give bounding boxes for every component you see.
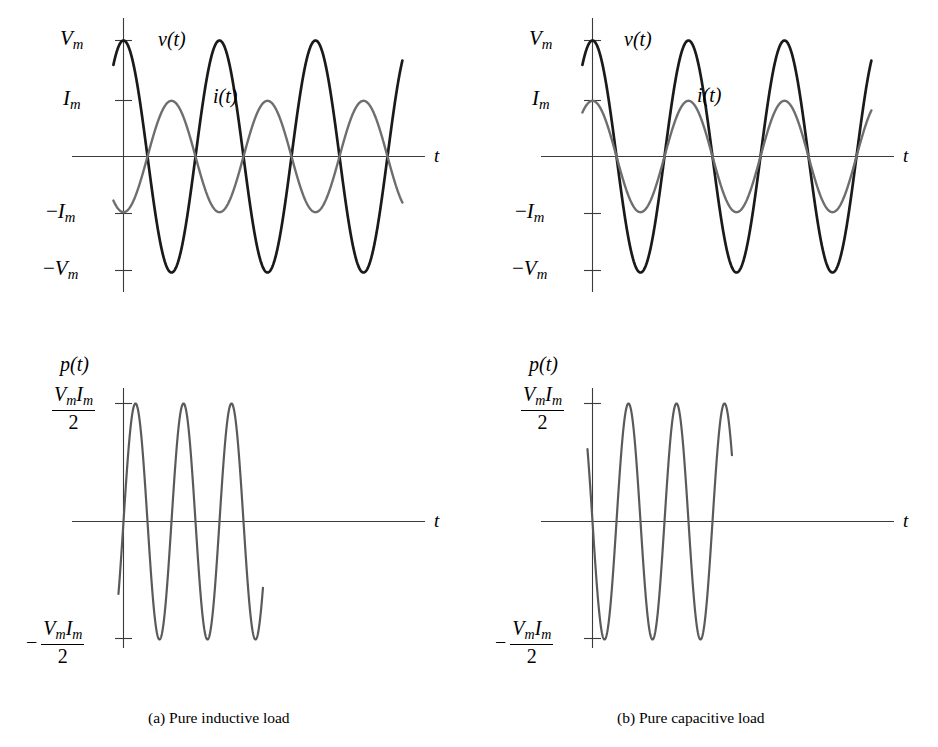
- ytick-label-pos-peak: VmIm 2: [52, 384, 95, 433]
- ytick-label-neg-Im: −Im: [46, 201, 75, 225]
- voltage-curve-label: v(t): [624, 29, 652, 49]
- axes: [541, 388, 894, 648]
- ytick-label-Im: Im: [532, 88, 550, 112]
- current-curve-label: i(t): [213, 86, 237, 106]
- voltage-curve-label: v(t): [158, 29, 186, 49]
- ytick-label-neg-Vm: −Vm: [512, 258, 547, 282]
- power-axis-label: p(t): [60, 354, 89, 374]
- caption-a: (a) Pure inductive load: [148, 709, 290, 727]
- chart-capacitive-voltage-current: Vm Im −Im −Vm v(t) i(t) t: [469, 0, 938, 330]
- ytick-label-neg-Vm: −Vm: [43, 258, 78, 282]
- caption-b: (b) Pure capacitive load: [617, 709, 765, 727]
- chart-inductive-power: p(t) VmIm 2 − VmIm 2 t: [0, 340, 469, 700]
- ytick-label-pos-peak: VmIm 2: [521, 384, 564, 433]
- ytick-label-neg-peak: − VmIm 2: [495, 618, 553, 667]
- t-axis-label: t: [903, 146, 908, 165]
- axes: [72, 388, 425, 648]
- current-curve-label: i(t): [697, 85, 721, 105]
- ytick-label-Vm: Vm: [60, 28, 83, 52]
- ytick-label-Vm: Vm: [529, 28, 552, 52]
- ytick-label-neg-peak: − VmIm 2: [26, 618, 84, 667]
- t-axis-label: t: [434, 511, 439, 530]
- chart-inductive-voltage-current: Vm Im −Im −Vm v(t) i(t) t: [0, 0, 469, 330]
- chart-capacitive-power: p(t) VmIm 2 − VmIm 2 t: [469, 340, 938, 700]
- t-axis-label: t: [903, 511, 908, 530]
- power-axis-label: p(t): [529, 354, 558, 374]
- t-axis-label: t: [434, 146, 439, 165]
- ytick-label-Im: Im: [63, 88, 81, 112]
- ytick-label-neg-Im: −Im: [515, 201, 544, 225]
